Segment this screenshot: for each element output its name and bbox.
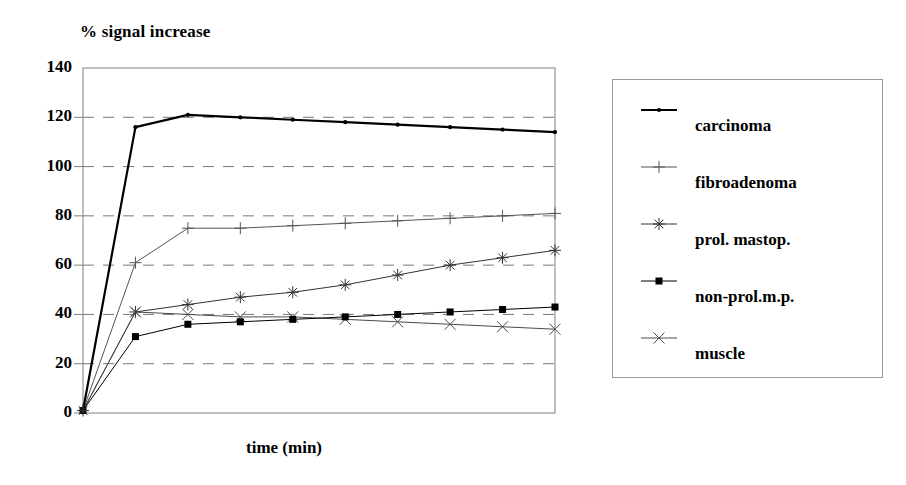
legend-marker-star-icon	[639, 216, 679, 232]
chart-page: % signal increase 020406080100120140 tim…	[0, 0, 906, 485]
legend-label: prol. mastop.	[695, 230, 791, 250]
series-muscle	[83, 306, 561, 410]
marker-square	[447, 308, 454, 315]
marker-square	[394, 311, 401, 318]
legend-marker-plus-icon	[639, 159, 679, 175]
marker-dot	[343, 120, 347, 124]
marker-square	[237, 318, 244, 325]
marker-dot	[396, 123, 400, 127]
series-line	[83, 115, 555, 411]
chart-legend: carcinomafibroadenomaprol. mastop.non-pr…	[612, 79, 883, 378]
legend-marker-square-icon	[639, 273, 679, 289]
marker-dot	[448, 125, 452, 129]
legend-label: muscle	[695, 344, 745, 364]
series-prol-mastop	[83, 244, 561, 410]
marker-square	[499, 306, 506, 313]
marker-dot	[186, 113, 190, 117]
series-non-prol-m-p	[83, 304, 559, 411]
series-line	[83, 307, 555, 411]
plot-frame	[83, 68, 555, 413]
marker-dot	[500, 128, 504, 132]
marker-square	[289, 316, 296, 323]
legend-label: fibroadenoma	[695, 173, 797, 193]
legend-marker-cross-icon	[639, 330, 679, 346]
marker-dot	[553, 130, 557, 134]
legend-item-carcinoma[interactable]: carcinoma	[613, 102, 882, 144]
marker-square	[342, 313, 349, 320]
legend-marker-dot-icon	[639, 102, 679, 118]
marker-square	[552, 304, 559, 311]
series-carcinoma	[83, 113, 557, 411]
legend-item-muscle[interactable]: muscle	[613, 330, 882, 372]
series-line	[83, 312, 555, 411]
marker-square	[132, 333, 139, 340]
marker-dot	[291, 118, 295, 122]
legend-label: non-prol.m.p.	[695, 287, 794, 307]
marker-dot	[657, 108, 661, 112]
series-line	[83, 250, 555, 410]
series-line	[83, 213, 555, 410]
legend-item-fibroadenoma[interactable]: fibroadenoma	[613, 159, 882, 201]
marker-dot	[238, 115, 242, 119]
legend-item-prol-mastop[interactable]: prol. mastop.	[613, 216, 882, 258]
marker-square	[656, 278, 663, 285]
legend-item-non-prol-m-p[interactable]: non-prol.m.p.	[613, 273, 882, 315]
legend-label: carcinoma	[695, 116, 771, 136]
marker-dot	[133, 125, 137, 129]
x-axis-title: time (min)	[246, 438, 322, 458]
marker-square	[184, 321, 191, 328]
